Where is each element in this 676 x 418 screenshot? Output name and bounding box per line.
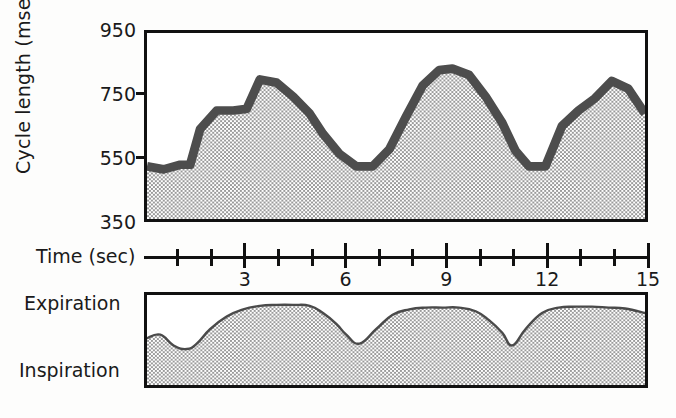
respiration-panel [144,292,648,388]
x-tick-3 [243,243,246,268]
y-tick-label-350: 350 [76,213,136,232]
y-axis-title: Cycle length (msec) [12,0,34,192]
cycle-length-series [147,69,645,219]
x-tick-7 [378,249,381,266]
x-tick-label-3: 3 [225,268,265,290]
x-tick-11 [512,249,515,266]
inspiration-label: Inspiration [19,359,120,381]
x-tick-9 [445,243,448,268]
y-tick-label-950: 950 [76,21,136,40]
x-tick-15 [647,243,650,268]
x-tick-10 [479,249,482,266]
x-axis-title: Time (sec) [36,245,135,267]
y-tick-label-550: 550 [76,149,136,168]
x-tick-label-6: 6 [326,268,366,290]
x-tick-13 [579,249,582,266]
x-tick-14 [613,249,616,266]
x-tick-label-9: 9 [426,268,466,290]
y-axis-tick-labels: 950 750 550 350 [74,30,136,222]
x-tick-6 [344,243,347,268]
cycle-length-panel [144,30,648,222]
respiration-series [147,305,645,385]
x-tick-label-12: 12 [527,268,567,290]
expiration-label: Expiration [24,292,120,314]
figure-container: 950 750 550 350 Cycle length (msec) Time… [0,0,676,418]
x-tick-2 [210,249,213,266]
x-tick-4 [277,249,280,266]
x-tick-12 [546,243,549,268]
respiration-plot [147,295,645,385]
x-tick-8 [411,249,414,266]
y-tick-label-750: 750 [76,85,136,104]
cycle-length-plot [147,33,645,219]
x-tick-1 [176,249,179,266]
x-axis-line [144,256,648,259]
x-tick-5 [311,249,314,266]
x-tick-label-15: 15 [628,268,668,290]
respiration-fill [147,305,645,385]
